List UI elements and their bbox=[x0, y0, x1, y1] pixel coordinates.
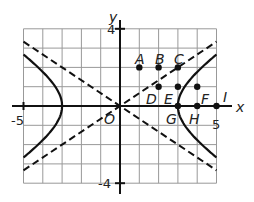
point-label-h: H bbox=[189, 111, 200, 127]
point-g bbox=[175, 103, 181, 109]
point-f bbox=[194, 84, 200, 90]
y-tick-label-4: 4 bbox=[107, 22, 115, 37]
point-label-a: A bbox=[134, 51, 145, 67]
point-label-f: F bbox=[201, 91, 210, 107]
point-d bbox=[155, 84, 161, 90]
point-label-d: D bbox=[146, 91, 157, 107]
point-label-e: E bbox=[164, 91, 173, 107]
point-label-g: G bbox=[166, 111, 177, 127]
x-tick-label-neg5: -5 bbox=[11, 113, 24, 128]
hyperbola-diagram: y x O -5 5 4 -4 A B C D E F G H I bbox=[0, 0, 254, 202]
x-tick-label-5: 5 bbox=[212, 117, 220, 132]
point-label-b: B bbox=[155, 51, 165, 67]
origin-label: O bbox=[104, 111, 115, 127]
point-i bbox=[213, 103, 219, 109]
point-label-c: C bbox=[174, 51, 184, 67]
point-label-i: I bbox=[223, 89, 227, 105]
y-tick-label-neg4: -4 bbox=[98, 176, 111, 191]
point-h bbox=[194, 103, 200, 109]
x-axis-label: x bbox=[235, 99, 245, 115]
point-e bbox=[175, 84, 181, 90]
